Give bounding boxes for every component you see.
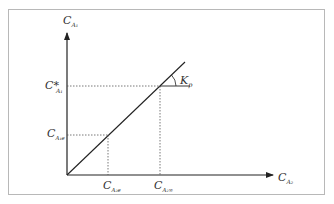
- equilibrium-line: [67, 62, 185, 175]
- label-c-a1e: CA₁e: [47, 127, 66, 141]
- kp-angle-arc: [172, 75, 177, 86]
- equilibrium-diagram: CA₁ CA₂ C*A₁ CA₁e CA₂e CA₂∞ Kp: [0, 0, 334, 204]
- label-c-star-a1: C*A₁: [45, 79, 63, 94]
- label-c-a2-inf: CA₂∞: [154, 179, 173, 193]
- label-kp: Kp: [179, 74, 193, 89]
- label-c-a2e: CA₂e: [103, 179, 122, 193]
- y-axis-label: CA₁: [63, 14, 78, 28]
- x-axis-label: CA₂: [278, 171, 294, 185]
